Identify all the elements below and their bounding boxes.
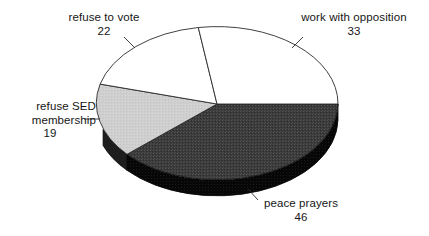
callout-refuse-to-vote: refuse to vote 22	[48, 11, 160, 38]
callout-label-work-with-opposition: work with opposition	[301, 11, 407, 23]
callout-label-refuse-sed-line2: membership	[4, 114, 96, 128]
callout-label-refuse-sed-line1: refuse SED	[36, 100, 96, 112]
pie-top-face	[96, 27, 338, 180]
pie-slice-work-with-opposition[interactable]	[198, 27, 338, 104]
callout-value-refuse-sed-membership: 19	[4, 127, 96, 141]
callout-peace-prayers: peace prayers 46	[249, 197, 353, 224]
callout-value-work-with-opposition: 33	[284, 25, 424, 39]
callout-work-with-opposition: work with opposition 33	[284, 11, 424, 38]
callout-refuse-sed-membership: refuse SED membership 19	[4, 100, 96, 141]
callout-value-refuse-to-vote: 22	[48, 25, 160, 39]
leader-line-refuse-to-vote	[124, 37, 135, 48]
pie-chart-figure: refuse to vote 22 work with opposition 3…	[0, 0, 429, 236]
callout-value-peace-prayers: 46	[249, 211, 353, 225]
callout-label-refuse-to-vote: refuse to vote	[68, 11, 139, 23]
callout-label-peace-prayers: peace prayers	[264, 197, 338, 209]
